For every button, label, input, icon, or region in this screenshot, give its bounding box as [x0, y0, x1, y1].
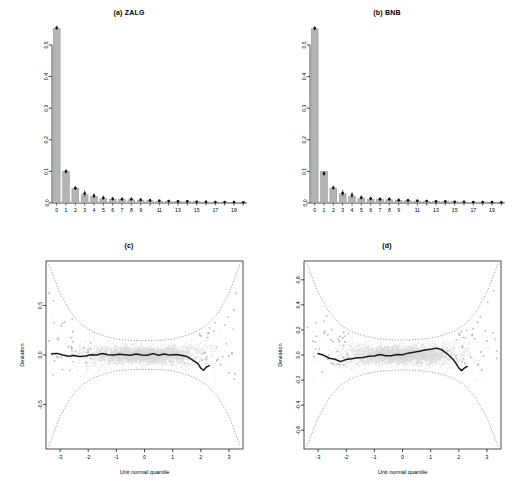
svg-text:2: 2 — [332, 207, 335, 213]
panel-c-wormplot: (c) -3-2-10123-0.50.00.5Unit normal quan… — [0, 235, 258, 492]
svg-text:13: 13 — [433, 207, 439, 213]
svg-text:11: 11 — [157, 207, 162, 213]
svg-text:17: 17 — [470, 207, 476, 213]
svg-text:0.0: 0.0 — [37, 351, 43, 358]
svg-text:-0.6: -0.6 — [295, 426, 301, 435]
svg-text:1: 1 — [171, 454, 174, 460]
svg-text:0.3: 0.3 — [302, 104, 308, 111]
svg-text:3: 3 — [341, 207, 344, 213]
svg-text:0: 0 — [55, 207, 58, 213]
svg-text:5: 5 — [102, 207, 105, 213]
svg-text:0.0: 0.0 — [302, 199, 308, 206]
svg-text:0.0: 0.0 — [295, 351, 301, 358]
svg-text:0.2: 0.2 — [302, 136, 308, 143]
svg-text:-0.2: -0.2 — [295, 375, 301, 384]
panel-c-title: (c) — [0, 242, 258, 249]
svg-text:Deviation: Deviation — [277, 343, 283, 366]
svg-text:3: 3 — [227, 454, 230, 460]
svg-text:Unit normal quantile: Unit normal quantile — [378, 469, 428, 475]
panel-c-plot: -3-2-10123-0.50.00.5Unit normal quantile… — [0, 235, 258, 492]
svg-text:0.2: 0.2 — [295, 326, 301, 333]
svg-text:2: 2 — [457, 454, 460, 460]
svg-text:1: 1 — [323, 207, 326, 213]
svg-text:6: 6 — [369, 207, 372, 213]
panel-a-title: (a) ZALG — [0, 9, 258, 16]
svg-text:6: 6 — [111, 207, 114, 213]
svg-text:0.5: 0.5 — [37, 302, 43, 309]
svg-text:7: 7 — [121, 207, 124, 213]
svg-text:-2: -2 — [86, 454, 91, 460]
svg-text:7: 7 — [379, 207, 382, 213]
svg-text:0.2: 0.2 — [44, 136, 50, 143]
svg-text:0: 0 — [313, 207, 316, 213]
svg-text:9: 9 — [397, 207, 400, 213]
svg-text:0.0: 0.0 — [44, 199, 50, 206]
svg-text:15: 15 — [452, 207, 458, 213]
svg-text:9: 9 — [139, 207, 142, 213]
svg-text:3: 3 — [83, 207, 86, 213]
svg-text:3: 3 — [485, 454, 488, 460]
panel-b-plot: 0.00.10.20.30.40.501234567891113151719 — [258, 0, 516, 235]
svg-text:0: 0 — [401, 454, 404, 460]
svg-text:-3: -3 — [316, 454, 321, 460]
svg-text:0.4: 0.4 — [302, 73, 308, 80]
svg-text:4: 4 — [351, 207, 354, 213]
svg-text:1: 1 — [429, 454, 432, 460]
svg-text:15: 15 — [194, 207, 200, 213]
svg-text:11: 11 — [415, 207, 420, 213]
svg-text:19: 19 — [489, 207, 495, 213]
svg-text:-1: -1 — [372, 454, 377, 460]
svg-text:2: 2 — [74, 207, 77, 213]
svg-text:13: 13 — [175, 207, 181, 213]
svg-text:17: 17 — [212, 207, 218, 213]
svg-text:4: 4 — [93, 207, 96, 213]
svg-text:-0.4: -0.4 — [295, 401, 301, 410]
panel-b-title: (b) BNB — [258, 9, 516, 16]
svg-text:0.1: 0.1 — [44, 168, 50, 175]
svg-text:8: 8 — [388, 207, 391, 213]
svg-text:0.4: 0.4 — [295, 301, 301, 308]
svg-text:Unit normal quantile: Unit normal quantile — [120, 469, 170, 475]
svg-text:0.5: 0.5 — [44, 41, 50, 48]
svg-text:-0.5: -0.5 — [37, 400, 43, 409]
svg-text:0: 0 — [143, 454, 146, 460]
svg-text:-2: -2 — [344, 454, 349, 460]
panel-a-rootogram: (a) ZALG 0.00.10.20.30.40.50123456789111… — [0, 0, 258, 235]
figure-root: (a) ZALG 0.00.10.20.30.40.50123456789111… — [0, 0, 516, 492]
svg-text:0.5: 0.5 — [302, 41, 308, 48]
svg-text:Deviation: Deviation — [19, 343, 25, 366]
svg-text:5: 5 — [360, 207, 363, 213]
panel-d-title: (d) — [258, 242, 516, 249]
svg-text:8: 8 — [130, 207, 133, 213]
svg-text:2: 2 — [199, 454, 202, 460]
svg-text:1: 1 — [65, 207, 68, 213]
svg-text:-1: -1 — [114, 454, 119, 460]
svg-text:-3: -3 — [58, 454, 63, 460]
panel-d-wormplot: (d) -3-2-10123-0.6-0.4-0.20.00.20.40.6Un… — [258, 235, 516, 492]
panel-b-rootogram: (b) BNB 0.00.10.20.30.40.501234567891113… — [258, 0, 516, 235]
svg-text:0.3: 0.3 — [44, 104, 50, 111]
svg-text:0.6: 0.6 — [295, 276, 301, 283]
svg-text:19: 19 — [231, 207, 237, 213]
panel-a-plot: 0.00.10.20.30.40.501234567891113151719 — [0, 0, 258, 235]
svg-text:0.4: 0.4 — [44, 73, 50, 80]
svg-text:0.1: 0.1 — [302, 168, 308, 175]
panel-d-plot: -3-2-10123-0.6-0.4-0.20.00.20.40.6Unit n… — [258, 235, 516, 492]
